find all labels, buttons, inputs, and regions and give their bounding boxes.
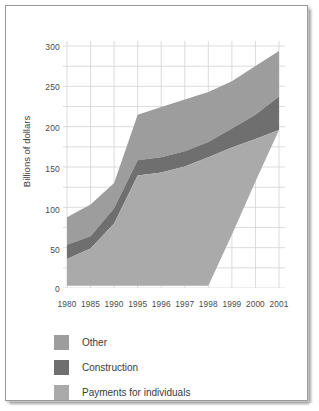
legend-label-other: Other (82, 337, 107, 348)
x-tick-1985: 1985 (81, 299, 100, 309)
figure-shadow-bottom (10, 402, 309, 406)
legend-item-construction: Construction (54, 355, 274, 380)
figure-frame: 300 250 200 150 100 50 0 Billions of dol… (5, 5, 308, 401)
x-tick-1997: 1997 (175, 299, 194, 309)
legend-swatch-payments (54, 385, 69, 400)
legend-label-payments: Payments for individuals (82, 387, 190, 398)
x-tick-2000: 2000 (246, 299, 265, 309)
legend-swatch-other (54, 335, 69, 350)
y-axis-title: Billions of dollars (21, 92, 32, 212)
x-tick-1998: 1998 (199, 299, 218, 309)
y-tick-300: 300 (26, 42, 60, 52)
legend-item-other: Other (54, 330, 274, 355)
legend-label-construction: Construction (82, 362, 138, 373)
x-axis-tick-labels: 1980 1985 1990 1995 1996 1997 1998 1999 … (63, 299, 295, 313)
x-tick-2001: 2001 (270, 299, 289, 309)
figure-shadow-right (309, 10, 313, 403)
x-tick-1995: 1995 (128, 299, 147, 309)
x-tick-1996: 1996 (152, 299, 171, 309)
legend-swatch-construction (54, 360, 69, 375)
y-tick-50: 50 (26, 245, 60, 255)
chart-legend: Other Construction Payments for individu… (54, 330, 274, 405)
x-tick-1999: 1999 (222, 299, 241, 309)
plot-area (63, 41, 285, 288)
x-tick-1990: 1990 (105, 299, 124, 309)
y-tick-0: 0 (26, 284, 60, 294)
y-tick-250: 250 (26, 82, 60, 92)
x-tick-1980: 1980 (58, 299, 77, 309)
area-chart-svg (63, 41, 285, 288)
